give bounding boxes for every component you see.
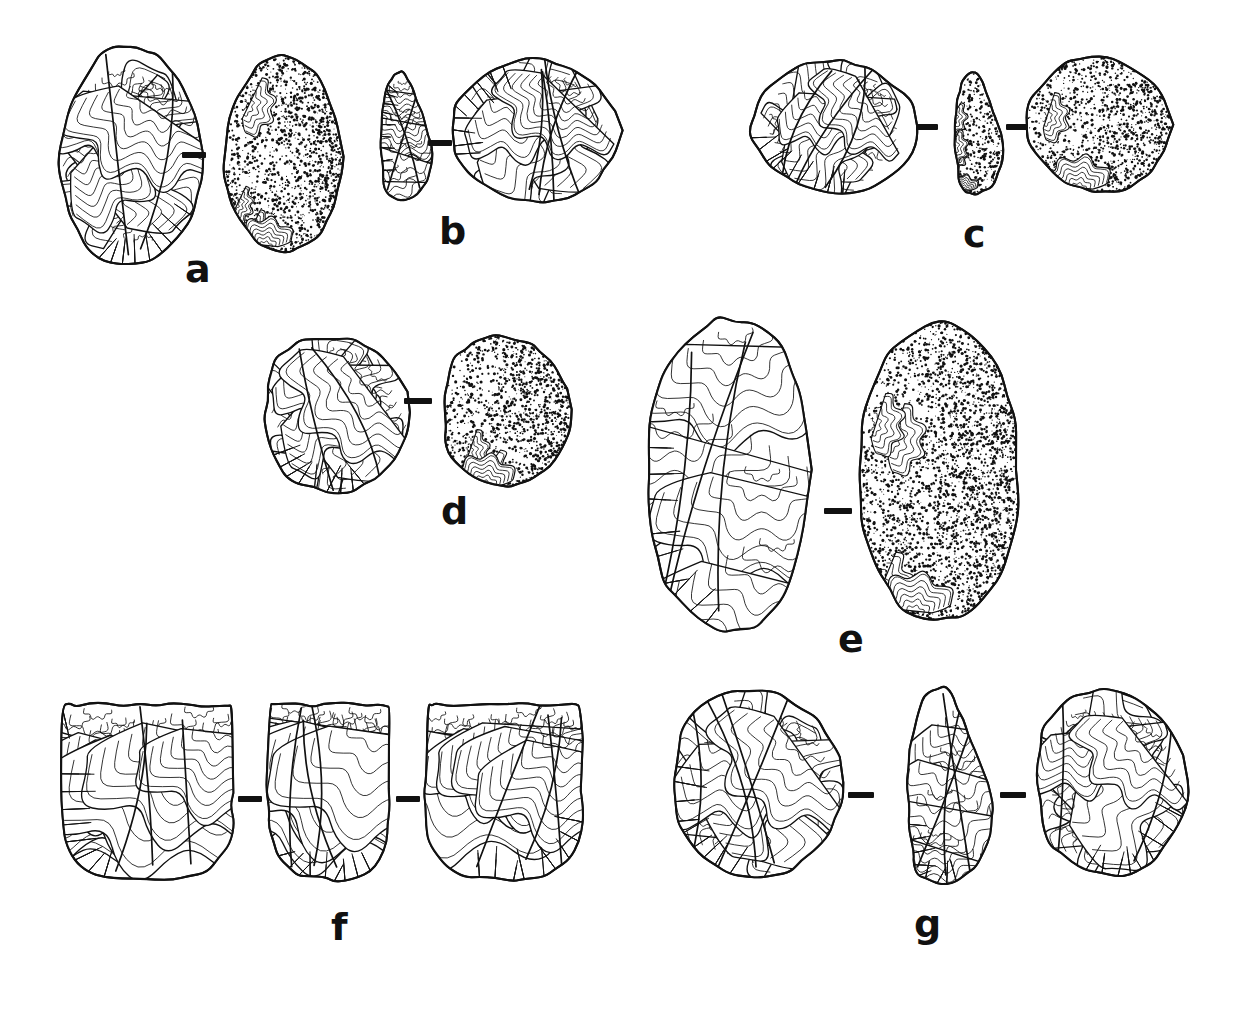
view-connector-dash-g-2 (1000, 792, 1026, 798)
specimen-f-profile-view (260, 694, 398, 888)
specimen-d-dorsal-view (250, 322, 418, 506)
specimen-a-ventral-view (214, 47, 352, 261)
view-connector-dash-f-1 (238, 796, 262, 802)
specimen-g-dorsal-view (660, 674, 852, 892)
specimen-label-e: e (838, 620, 864, 658)
view-connector-dash-c-1 (916, 124, 938, 130)
specimen-d-ventral-view (430, 322, 578, 500)
specimen-label-d: d (441, 492, 468, 530)
view-connector-dash-d-1 (404, 398, 432, 404)
specimen-g-ventral-view (1022, 674, 1196, 890)
specimen-label-f: f (331, 908, 348, 946)
specimen-label-c: c (963, 215, 986, 253)
view-connector-dash-b-1 (428, 140, 452, 146)
lithic-illustration-plate: abcdefg (0, 0, 1251, 1016)
view-connector-dash-a-1 (182, 152, 206, 158)
specimen-b-dorsal-view (444, 49, 626, 213)
specimen-e-dorsal-view (635, 310, 823, 638)
specimen-label-a: a (185, 250, 211, 288)
specimen-c-dorsal-view (744, 50, 924, 204)
specimen-g-profile-view (874, 680, 1006, 892)
view-connector-dash-e-1 (824, 508, 852, 514)
specimen-f-dorsal-view (54, 694, 242, 888)
specimen-c-profile-view (932, 64, 1014, 202)
specimen-c-ventral-view (1020, 47, 1178, 203)
view-connector-dash-f-2 (396, 796, 420, 802)
view-connector-dash-c-2 (1006, 124, 1028, 130)
specimen-e-ventral-view (847, 314, 1031, 630)
view-connector-dash-g-1 (848, 792, 874, 798)
specimen-b-profile-view (357, 64, 443, 208)
specimen-label-b: b (439, 212, 466, 250)
specimen-f-ventral-view (416, 694, 592, 888)
specimen-label-g: g (914, 905, 941, 943)
